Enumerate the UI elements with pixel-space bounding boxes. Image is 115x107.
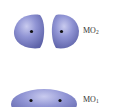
mo1-label: MO1	[83, 96, 99, 105]
mo2-label: MO2	[83, 27, 99, 36]
mo2-right-lobe	[52, 15, 79, 49]
mo2-orbital	[14, 15, 79, 49]
mo1-orbital	[11, 89, 77, 107]
mo1-label-sub: 1	[96, 98, 99, 104]
mo1-left-nucleus	[29, 99, 32, 102]
mo1-lobe	[11, 89, 77, 107]
mo-diagram	[0, 0, 115, 107]
mo1-right-nucleus	[58, 99, 61, 102]
mo2-right-nucleus	[60, 30, 63, 33]
mo1-label-main: MO	[83, 95, 96, 104]
mo2-left-lobe	[14, 15, 44, 49]
mo2-left-nucleus	[30, 30, 33, 33]
mo2-label-sub: 2	[96, 29, 99, 35]
mo2-label-main: MO	[83, 26, 96, 35]
